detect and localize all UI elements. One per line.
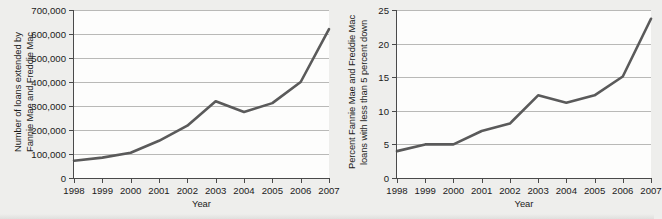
- data-line: [74, 29, 329, 161]
- y-tick-mark: [69, 178, 73, 179]
- y-tick-label: 20: [334, 38, 389, 49]
- x-axis-line-right: [396, 178, 652, 179]
- y-tick-mark: [392, 44, 396, 45]
- x-tick-mark: [397, 179, 398, 183]
- y-tick-label: 600,000: [0, 29, 66, 40]
- y-axis-title-right: Percent Fannie Mae and Freddie Mac loans…: [346, 5, 370, 180]
- x-tick-label: 2000: [443, 185, 464, 196]
- y-tick-mark: [69, 10, 73, 11]
- plot-area-right: [397, 10, 651, 178]
- y-tick-mark: [69, 82, 73, 83]
- x-tick-label: 2003: [205, 185, 226, 196]
- x-tick-label: 2007: [640, 185, 661, 196]
- x-tick-label: 2005: [262, 185, 283, 196]
- x-tick-label: 2005: [584, 185, 605, 196]
- x-tick-mark: [131, 179, 132, 183]
- x-tick-label: 2004: [233, 185, 254, 196]
- x-tick-mark: [272, 179, 273, 183]
- x-tick-mark: [425, 179, 426, 183]
- plot-area-left: [74, 10, 329, 178]
- x-tick-label: 2002: [499, 185, 520, 196]
- y-tick-label: 0: [334, 173, 389, 184]
- x-tick-mark: [329, 179, 330, 183]
- y-tick-label: 25: [334, 5, 389, 16]
- y-tick-mark: [392, 178, 396, 179]
- x-tick-mark: [595, 179, 596, 183]
- y-tick-label: 0: [0, 173, 66, 184]
- x-tick-label: 2000: [120, 185, 141, 196]
- y-tick-mark: [69, 130, 73, 131]
- chart-panel-loans-count: Number of loans extended by Fannie Mae a…: [0, 0, 334, 219]
- x-axis-line-left: [73, 178, 330, 179]
- x-tick-mark: [244, 179, 245, 183]
- y-tick-label: 400,000: [0, 77, 66, 88]
- x-tick-mark: [482, 179, 483, 183]
- y-tick-mark: [392, 111, 396, 112]
- line-series-loans-count: [74, 10, 329, 178]
- y-tick-label: 700,000: [0, 5, 66, 16]
- y-tick-label: 15: [334, 72, 389, 83]
- y-axis-line-right: [396, 10, 397, 179]
- x-tick-mark: [538, 179, 539, 183]
- x-tick-label: 2001: [471, 185, 492, 196]
- x-tick-label: 1998: [63, 185, 84, 196]
- y-tick-label: 10: [334, 105, 389, 116]
- x-tick-mark: [102, 179, 103, 183]
- y-tick-mark: [69, 154, 73, 155]
- x-tick-mark: [623, 179, 624, 183]
- x-tick-mark: [301, 179, 302, 183]
- x-tick-mark: [566, 179, 567, 183]
- y-tick-label: 5: [334, 139, 389, 150]
- x-tick-label: 2006: [290, 185, 311, 196]
- x-tick-label: 1999: [415, 185, 436, 196]
- x-tick-mark: [74, 179, 75, 183]
- y-axis-line-left: [73, 10, 74, 179]
- x-tick-label: 1998: [386, 185, 407, 196]
- x-tick-mark: [651, 179, 652, 183]
- x-tick-mark: [159, 179, 160, 183]
- y-tick-mark: [392, 77, 396, 78]
- x-tick-label: 2006: [612, 185, 633, 196]
- chart-panel-loans-percent: Percent Fannie Mae and Freddie Mac loans…: [334, 0, 654, 219]
- x-tick-label: 2002: [177, 185, 198, 196]
- x-tick-label: 1999: [92, 185, 113, 196]
- y-tick-mark: [69, 34, 73, 35]
- y-tick-label: 500,000: [0, 53, 66, 64]
- x-tick-label: 2004: [556, 185, 577, 196]
- x-tick-mark: [510, 179, 511, 183]
- y-tick-mark: [392, 144, 396, 145]
- x-axis-title-right: Year: [397, 198, 651, 209]
- y-tick-label: 300,000: [0, 101, 66, 112]
- x-axis-title-left: Year: [74, 198, 329, 209]
- x-tick-mark: [187, 179, 188, 183]
- x-tick-label: 2003: [527, 185, 548, 196]
- y-tick-label: 200,000: [0, 125, 66, 136]
- x-tick-mark: [453, 179, 454, 183]
- x-tick-mark: [216, 179, 217, 183]
- y-tick-label: 100,000: [0, 149, 66, 160]
- data-line: [397, 19, 651, 151]
- y-tick-mark: [69, 106, 73, 107]
- y-tick-mark: [69, 58, 73, 59]
- line-series-loans-percent: [397, 10, 651, 178]
- y-tick-mark: [392, 10, 396, 11]
- x-tick-label: 2001: [148, 185, 169, 196]
